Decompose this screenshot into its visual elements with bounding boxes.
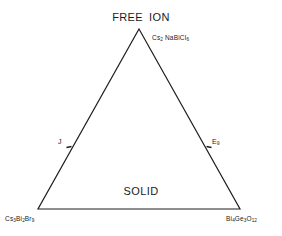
left-edge-tick — [67, 147, 72, 148]
base-label-solid: SOLID — [0, 186, 282, 197]
compound-right-o-sub: 12 — [252, 218, 257, 223]
apex-label-free: FREE — [112, 11, 143, 23]
compound-right-o: O — [246, 215, 251, 222]
triangle-outline — [38, 29, 240, 209]
compound-left-br-sub: 9 — [32, 218, 35, 223]
compound-left-br: Br — [25, 215, 32, 222]
compound-label-bi4ge3o12: Bi4Ge3O12 — [226, 216, 257, 223]
compound-apex-nabicl: NaBiCl — [165, 34, 186, 41]
marker-right-symbol: E — [212, 138, 217, 145]
marker-label-e: E9 — [212, 138, 219, 145]
ternary-diagram: FREEION SOLID Cs2 NaBiCl6 Cs3Bi2Br9 Bi4G… — [0, 0, 282, 236]
compound-label-cs2nabicl6: Cs2 NaBiCl6 — [152, 35, 189, 42]
compound-left-bi-sub: 2 — [22, 218, 25, 223]
right-edge-tick — [207, 147, 212, 148]
triangle-outline-svg — [0, 0, 282, 236]
compound-right-ge: Ge — [235, 215, 244, 222]
compound-apex-cs-sub: 2 — [160, 37, 163, 42]
compound-left-cs-sub: 3 — [13, 218, 16, 223]
compound-label-cs3bi2br9: Cs3Bi2Br9 — [5, 216, 34, 223]
apex-label-ion: ION — [149, 11, 170, 23]
compound-right-bi-sub: 4 — [232, 218, 235, 223]
compound-apex-cl-sub: 6 — [186, 37, 189, 42]
marker-label-j: J — [58, 138, 62, 145]
apex-label: FREEION — [0, 12, 282, 23]
